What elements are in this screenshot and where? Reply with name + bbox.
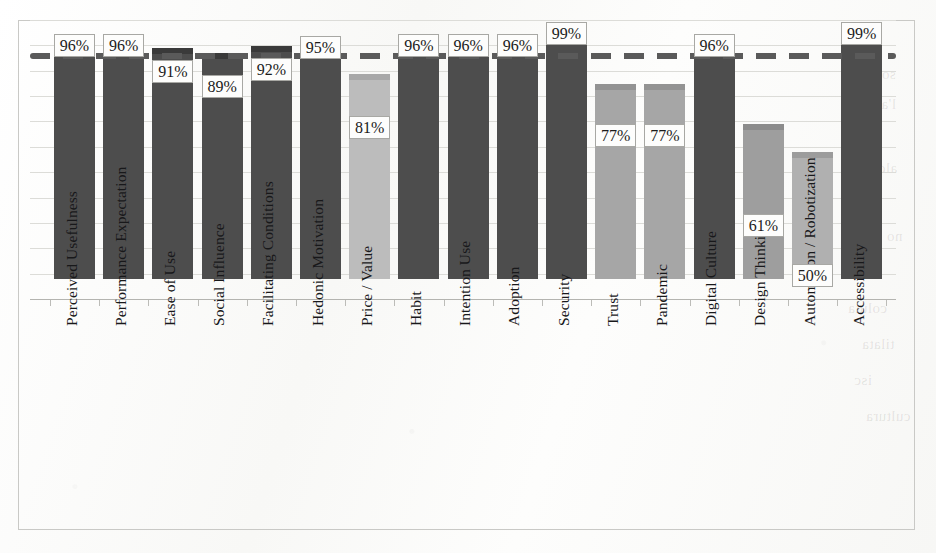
bar-value-label: 89% bbox=[202, 75, 243, 98]
bar-body bbox=[497, 42, 538, 279]
axis-tick bbox=[591, 300, 592, 306]
category-label: Adoption bbox=[505, 267, 523, 326]
bar-value-label: 77% bbox=[644, 124, 685, 147]
axis-tick bbox=[148, 300, 149, 306]
bar-value-label: 99% bbox=[546, 22, 587, 45]
chart-page: sollutl'altndoaldetvsuno locolutatilatai… bbox=[0, 0, 936, 553]
category-label: Trust bbox=[604, 293, 622, 326]
bar-value-label: 96% bbox=[694, 34, 735, 57]
bar bbox=[546, 28, 587, 279]
category-label: Automation / Robotization bbox=[801, 157, 819, 326]
bar-value-label: 96% bbox=[103, 34, 144, 57]
axis-tick bbox=[394, 300, 395, 306]
bar-value-label: 96% bbox=[54, 34, 95, 57]
category-label: Hedonic Motivation bbox=[309, 199, 327, 326]
category-label: Accessibility bbox=[850, 244, 868, 326]
axis-tick bbox=[690, 300, 691, 306]
bar-value-label: 50% bbox=[792, 264, 833, 287]
axis-tick bbox=[739, 300, 740, 306]
bar-body bbox=[152, 54, 193, 279]
bar-value-label: 99% bbox=[841, 22, 882, 45]
category-label: Perceived Usefulness bbox=[63, 191, 81, 326]
axis-tick bbox=[788, 300, 789, 306]
category-label: Intention Use bbox=[456, 241, 474, 326]
category-label: Digital Culture bbox=[702, 231, 720, 326]
axis-tick bbox=[99, 300, 100, 306]
category-label: Price / Value bbox=[358, 246, 376, 326]
axis-tick bbox=[444, 300, 445, 306]
bar bbox=[497, 36, 538, 279]
axis-tick bbox=[886, 300, 887, 306]
bar-value-label: 91% bbox=[152, 60, 193, 83]
axis-tick bbox=[493, 300, 494, 306]
bar bbox=[595, 84, 636, 279]
axis-tick bbox=[50, 300, 51, 306]
category-label: Security bbox=[555, 274, 573, 326]
bar-value-label: 96% bbox=[497, 34, 538, 57]
axis-tick bbox=[198, 300, 199, 306]
bar-value-label: 95% bbox=[300, 36, 341, 59]
bar bbox=[398, 36, 439, 279]
axis-tick bbox=[247, 300, 248, 306]
category-label: Ease of Use bbox=[161, 251, 179, 326]
category-label: Social Influence bbox=[210, 223, 228, 326]
bar-value-label: 96% bbox=[398, 34, 439, 57]
axis-tick bbox=[542, 300, 543, 306]
bar-body bbox=[644, 90, 685, 279]
axis-tick bbox=[296, 300, 297, 306]
bar-value-label: 96% bbox=[448, 34, 489, 57]
bar-body bbox=[398, 42, 439, 279]
bar-body bbox=[546, 34, 587, 279]
bar-value-label: 81% bbox=[349, 116, 390, 139]
category-label: Performance Expectation bbox=[112, 167, 130, 326]
plot-area: Perceived UsefulnessPerformance Expectat… bbox=[30, 20, 896, 279]
bar bbox=[841, 28, 882, 279]
category-label: Facilitating Conditions bbox=[259, 181, 277, 326]
bar-value-label: 77% bbox=[595, 124, 636, 147]
bar bbox=[644, 84, 685, 279]
bar-body bbox=[841, 34, 882, 279]
bar-value-label: 92% bbox=[251, 58, 292, 81]
axis-tick bbox=[640, 300, 641, 306]
category-label: Pandemic bbox=[653, 264, 671, 326]
axis-tick bbox=[837, 300, 838, 306]
gridline bbox=[30, 20, 896, 21]
category-label: Habit bbox=[407, 291, 425, 326]
axis-tick bbox=[345, 300, 346, 306]
bar-body bbox=[595, 90, 636, 279]
bar-value-label: 61% bbox=[743, 214, 784, 237]
